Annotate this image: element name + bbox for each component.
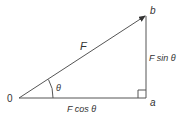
- right-angle-marker: [138, 90, 146, 98]
- point-b-label: b: [150, 5, 156, 16]
- vertical-component-label: F sin θ: [149, 53, 176, 63]
- vector-label: F: [80, 40, 88, 52]
- angle-arc: [49, 80, 54, 98]
- point-a-label: a: [150, 97, 156, 108]
- horizontal-component-label: F cos θ: [67, 104, 96, 114]
- origin-label: 0: [7, 93, 13, 104]
- angle-label: θ: [56, 83, 61, 93]
- force-vector-arrow: [19, 16, 145, 98]
- vector-diagram: 0 F θ b a F sin θ F cos θ: [0, 0, 192, 120]
